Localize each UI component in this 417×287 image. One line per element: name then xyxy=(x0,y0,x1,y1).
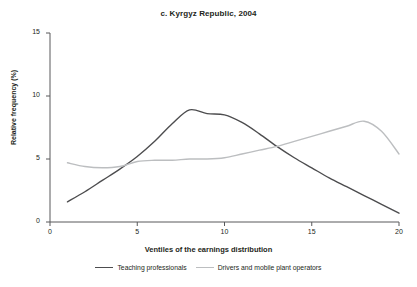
x-axis-ticks xyxy=(50,222,399,226)
y-tick-label: 15 xyxy=(20,28,40,35)
y-tick-label: 10 xyxy=(20,91,40,98)
y-tick-label: 0 xyxy=(20,217,40,224)
plot-area xyxy=(0,0,417,287)
legend-item-teaching-professionals: Teaching professionals xyxy=(95,264,186,271)
axes xyxy=(50,33,399,222)
x-tick-label: 15 xyxy=(302,228,322,235)
y-tick-label: 5 xyxy=(20,154,40,161)
y-axis-ticks xyxy=(46,33,50,222)
legend-swatch-icon-series-0 xyxy=(95,267,113,268)
chart-figure: c. Kyrgyz Republic, 2004 Relative freque… xyxy=(0,0,417,287)
x-axis-title: Ventiles of the earnings distribution xyxy=(0,245,417,254)
x-tick-label: 0 xyxy=(40,228,60,235)
legend-label-series-0: Teaching professionals xyxy=(117,264,186,271)
data-series-group xyxy=(67,109,399,213)
legend-item-drivers-and-mobile-plant-operators: Drivers and mobile plant operators xyxy=(196,264,322,271)
legend-label-series-1: Drivers and mobile plant operators xyxy=(218,264,322,271)
x-tick-label: 20 xyxy=(389,228,409,235)
x-tick-label: 10 xyxy=(215,228,235,235)
chart-legend: Teaching professionals Drivers and mobil… xyxy=(0,264,417,271)
x-tick-label: 5 xyxy=(127,228,147,235)
legend-swatch-icon-series-1 xyxy=(196,267,214,268)
series-line-1 xyxy=(67,121,399,168)
